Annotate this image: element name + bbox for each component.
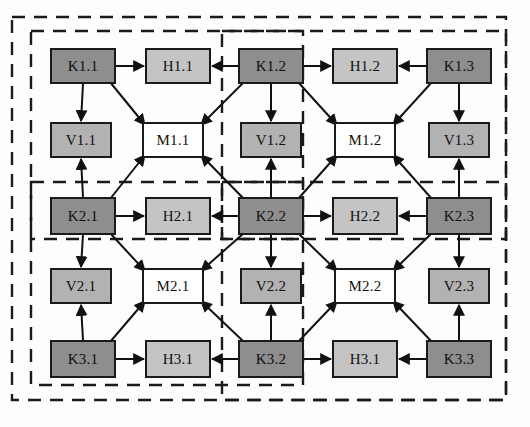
edge-K2_1-to-M1_1 — [110, 155, 145, 199]
node-label: K1.2 — [256, 58, 286, 75]
diagram-canvas: K1.1H1.1K1.2H1.2K1.3V1.1M1.1V1.2M1.2V1.3… — [0, 0, 530, 427]
edge-K2_1-to-V1_1 — [81, 159, 83, 197]
edge-K1_1-to-V1_1 — [81, 84, 83, 121]
node-label: K1.1 — [68, 58, 98, 75]
node-H1-1[interactable]: H1.1 — [145, 48, 211, 84]
node-V2-2[interactable]: V2.2 — [240, 268, 302, 304]
node-label: H3.1 — [350, 351, 380, 368]
node-label: M2.1 — [157, 278, 190, 295]
node-label: H1.2 — [350, 58, 380, 75]
node-K3-1[interactable]: K3.1 — [50, 340, 116, 378]
node-label: K2.1 — [68, 208, 98, 225]
edge-K2_3-to-M1_2 — [393, 155, 432, 199]
node-label: M1.2 — [349, 132, 382, 149]
node-M1-1[interactable]: M1.1 — [142, 122, 204, 158]
node-V1-2[interactable]: V1.2 — [240, 122, 302, 158]
node-H2-1[interactable]: H2.1 — [145, 197, 211, 235]
node-M1-2[interactable]: M1.2 — [334, 122, 396, 158]
node-M2-1[interactable]: M2.1 — [142, 268, 204, 304]
node-K3-3[interactable]: K3.3 — [426, 340, 492, 378]
node-label: K2.3 — [444, 208, 474, 225]
node-label: K3.1 — [68, 351, 98, 368]
node-label: K2.2 — [256, 208, 286, 225]
node-label: K1.3 — [444, 58, 474, 75]
edge-K3_1-to-V2_1 — [81, 305, 83, 340]
edge-K3_1-to-M2_1 — [110, 301, 145, 342]
node-V2-1[interactable]: V2.1 — [50, 268, 112, 304]
node-K1-2[interactable]: K1.2 — [238, 48, 304, 84]
node-K2-3[interactable]: K2.3 — [426, 197, 492, 235]
edge-K1_1-to-M1_1 — [110, 82, 145, 125]
edge-K2_1-to-V2_1 — [81, 235, 83, 267]
node-K1-1[interactable]: K1.1 — [50, 48, 116, 84]
node-H2-2[interactable]: H2.2 — [332, 197, 398, 235]
node-label: H1.1 — [163, 58, 193, 75]
node-label: V2.2 — [256, 278, 286, 295]
node-label: M2.2 — [349, 278, 382, 295]
node-H3-1[interactable]: H3.1 — [332, 340, 398, 378]
node-K1-3[interactable]: K1.3 — [426, 48, 492, 84]
edge-K3_3-to-M2_2 — [393, 301, 432, 342]
node-H3-1[interactable]: H3.1 — [145, 340, 211, 378]
node-K2-2[interactable]: K2.2 — [238, 197, 304, 235]
node-label: H2.2 — [350, 208, 380, 225]
node-label: M1.1 — [157, 132, 190, 149]
node-label: V2.1 — [66, 278, 96, 295]
node-label: H3.1 — [163, 351, 193, 368]
node-M2-2[interactable]: M2.2 — [334, 268, 396, 304]
node-label: V2.3 — [444, 278, 474, 295]
node-label: V1.3 — [444, 132, 474, 149]
edge-K3_2-to-M2_1 — [201, 301, 244, 342]
node-V1-1[interactable]: V1.1 — [50, 122, 112, 158]
node-label: V1.2 — [256, 132, 286, 149]
node-label: H2.1 — [163, 208, 193, 225]
node-label: K3.2 — [256, 351, 286, 368]
node-label: V1.1 — [66, 132, 96, 149]
node-K3-2[interactable]: K3.2 — [238, 340, 304, 378]
node-V1-3[interactable]: V1.3 — [428, 122, 490, 158]
node-K2-1[interactable]: K2.1 — [50, 197, 116, 235]
edge-K1_3-to-M1_2 — [393, 82, 432, 125]
node-label: K3.3 — [444, 351, 474, 368]
node-H1-2[interactable]: H1.2 — [332, 48, 398, 84]
node-V2-3[interactable]: V2.3 — [428, 268, 490, 304]
